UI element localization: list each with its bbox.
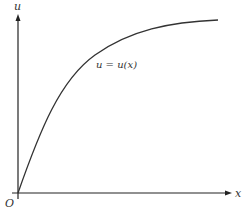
y-axis-label: u	[14, 0, 21, 13]
graph-svg: u x O u = u(x)	[0, 0, 246, 213]
origin-label: O	[5, 197, 14, 210]
y-axis-arrow-icon	[16, 14, 21, 21]
function-graph-diagram: u x O u = u(x)	[0, 0, 246, 213]
x-axis-label: x	[235, 187, 242, 200]
curve-label: u = u(x)	[96, 59, 137, 70]
x-axis-arrow-icon	[225, 191, 232, 196]
curve-u-of-x	[18, 20, 218, 193]
